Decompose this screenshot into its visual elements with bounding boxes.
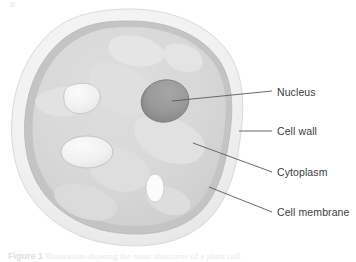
label-cell-wall: Cell wall bbox=[277, 125, 317, 137]
label-nucleus: Nucleus bbox=[277, 86, 316, 98]
figure-caption-text: Illustration showing the main structures… bbox=[45, 251, 242, 261]
figure-caption-label: Figure 1 bbox=[8, 251, 43, 261]
label-cell-membrane: Cell membrane bbox=[277, 206, 350, 218]
vacuole-lower-center bbox=[146, 174, 164, 202]
label-cytoplasm: Cytoplasm bbox=[277, 166, 328, 178]
cell-diagram-figure: Nucleus Cell wall Cytoplasm Cell membran… bbox=[0, 0, 356, 262]
figure-caption: Figure 1 Illustration showing the main s… bbox=[8, 251, 352, 262]
vacuole-mid-left bbox=[61, 136, 113, 168]
cytoplasm-structure bbox=[33, 27, 226, 226]
